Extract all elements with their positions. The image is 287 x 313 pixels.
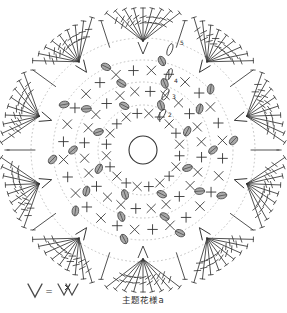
canvas-background xyxy=(0,0,287,313)
motif-canvas: 2345 = 主题花様a xyxy=(0,0,287,313)
round-label-3: 3 xyxy=(172,93,176,100)
round-label-4: 4 xyxy=(174,77,178,84)
legend-equals-sign: = xyxy=(45,286,53,296)
treble-top-cap xyxy=(81,21,86,22)
round-label-5: 5 xyxy=(180,39,184,46)
treble-top-cap xyxy=(200,21,205,22)
treble-crossbar xyxy=(12,168,13,175)
treble-crossbar xyxy=(274,125,275,132)
treble-top-cap xyxy=(81,279,86,280)
round-label-2: 2 xyxy=(168,111,172,118)
diagram-caption: 主题花様a xyxy=(122,295,163,305)
crochet-motif-diagram: 2345 = 主题花様a xyxy=(0,0,287,313)
treble-crossbar xyxy=(18,171,19,178)
treble-crossbar xyxy=(267,123,268,130)
treble-top-cap xyxy=(200,279,205,280)
